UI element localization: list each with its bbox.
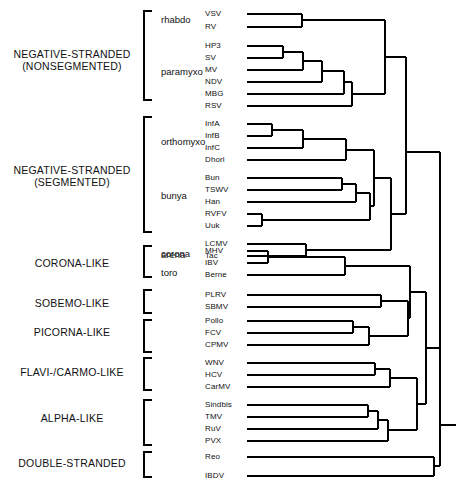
cladogram-branches: [0, 0, 462, 482]
phylogenetic-tree-figure: NEGATIVE-STRANDED (NONSEGMENTED) NEGATIV…: [0, 0, 462, 482]
